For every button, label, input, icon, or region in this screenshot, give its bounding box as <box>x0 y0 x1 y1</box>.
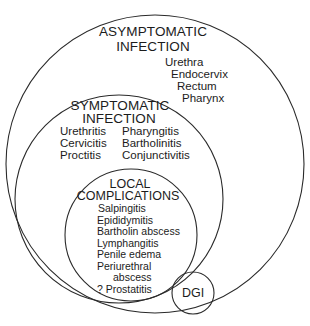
asymptomatic-item-urethra: Urethra <box>165 57 203 69</box>
symptomatic-item-cervicitis: Cervicitis <box>60 138 107 150</box>
local-item-lymphangitis: Lymphangitis <box>97 238 158 249</box>
symptomatic-item-conjunctivitis: Conjunctivitis <box>122 150 190 162</box>
local-title-line2: COMPLICATIONS <box>77 190 180 203</box>
asymptomatic-title-line2: INFECTION <box>116 40 190 54</box>
asymptomatic-item-endocervix: Endocervix <box>171 69 228 81</box>
asymptomatic-infection-circle <box>6 15 304 313</box>
symptomatic-item-proctitis: Proctitis <box>60 150 101 162</box>
asymptomatic-item-pharynx: Pharynx <box>182 93 224 105</box>
asymptomatic-title-line1: ASYMPTOMATIC <box>99 25 207 39</box>
symptomatic-item-bartholinitis: Bartholinitis <box>122 138 181 150</box>
local-item-prostatitis: ? Prostatitis <box>97 284 152 295</box>
local-item-penile-edema: Penile edema <box>97 249 161 260</box>
dgi-label: DGI <box>182 287 204 300</box>
local-item-salpingitis: Salpingitis <box>98 203 146 214</box>
local-item-abscess: abscess <box>113 272 152 283</box>
local-item-epididymitis: Epididymitis <box>97 215 153 226</box>
symptomatic-item-urethritis: Urethritis <box>60 126 106 138</box>
symptomatic-item-pharyngitis: Pharyngitis <box>122 126 179 138</box>
symptomatic-title-line2: INFECTION <box>82 112 156 126</box>
local-item-periurethral: Periurethral <box>97 261 151 272</box>
local-item-bartholin-abscess: Bartholin abscess <box>97 226 180 237</box>
asymptomatic-item-rectum: Rectum <box>177 81 217 93</box>
